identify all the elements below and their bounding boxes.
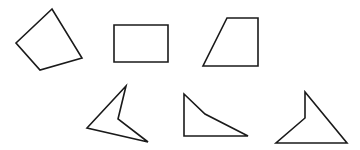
concave-quadrilateral-notched [276,92,347,143]
concave-quadrilateral-right [184,94,248,136]
rectangle [114,25,168,62]
quadrilateral-irregular [16,9,82,70]
trapezoid [203,18,258,66]
concave-quadrilateral-arrowhead [87,86,148,142]
shapes-figure [0,0,360,150]
